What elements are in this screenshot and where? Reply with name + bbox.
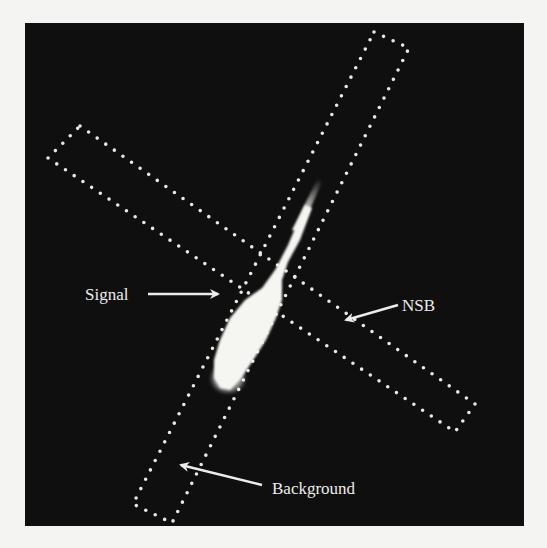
- signal-label: Signal: [85, 286, 128, 303]
- nsb-label: NSB: [402, 297, 435, 314]
- nsb-arrow: [346, 305, 398, 320]
- background-label: Background: [272, 480, 355, 497]
- detector-image-panel: Signal NSB Background: [25, 23, 524, 526]
- cropped-page-text: [20, 0, 530, 5]
- background-arrow: [181, 465, 262, 485]
- signal-spot: [212, 178, 322, 392]
- nsb-region-box: [48, 126, 475, 432]
- diagram-canvas: [25, 23, 524, 526]
